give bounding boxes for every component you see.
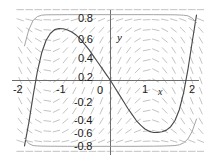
- slope-field-dash: [152, 20, 159, 21]
- slope-field-dash: [116, 19, 122, 21]
- slope-field-dash: [152, 130, 159, 131]
- slope-field-dash: [162, 98, 166, 103]
- slope-field-dash: [116, 140, 122, 142]
- slope-field-dash: [125, 140, 132, 142]
- slope-field-dash: [53, 19, 60, 20]
- slope-field-dash: [100, 118, 103, 124]
- slope-field-dash: [127, 47, 131, 52]
- slope-field-dash: [63, 68, 67, 73]
- slope-field-dash: [81, 28, 86, 33]
- slope-field-dash: [127, 67, 131, 73]
- slope-field-dash: [172, 67, 175, 73]
- slope-field-dash: [143, 30, 150, 31]
- slope-field-dash: [19, 67, 22, 73]
- slope-field-dash: [82, 87, 85, 93]
- slope-field-dash: [180, 129, 185, 134]
- slope-field-dash: [162, 119, 167, 123]
- slope-field-dash: [127, 98, 131, 104]
- slope-field-dash: [53, 69, 59, 72]
- slope-field-dash: [53, 120, 59, 122]
- slope-field-dash: [73, 108, 77, 114]
- slope-field-dash: [18, 129, 23, 134]
- slope-field-dash: [44, 50, 51, 51]
- slope-field-dash: [181, 118, 185, 124]
- slope-field-dash: [44, 70, 51, 71]
- slope-field-dash: [181, 108, 184, 114]
- slope-field-dash: [63, 108, 68, 113]
- slope-field-dash: [170, 140, 177, 142]
- slope-field-dash: [35, 29, 41, 31]
- slope-field-dash: [200, 98, 203, 104]
- slope-field-dash: [153, 110, 159, 113]
- slope-field-dash: [44, 40, 51, 41]
- slope-field-dash: [99, 27, 104, 32]
- slope-field-dash: [73, 67, 76, 73]
- slope-field-dash: [99, 129, 104, 134]
- slope-field-dash: [143, 70, 150, 72]
- slope-field-dash: [53, 99, 59, 102]
- slope-field-dash: [171, 28, 176, 32]
- slope-field-dash: [53, 109, 59, 112]
- slope-field-dash: [200, 57, 203, 63]
- slope-field-dash: [35, 141, 42, 142]
- slope-field-dash: [181, 57, 184, 63]
- slope-field-dash: [35, 130, 41, 132]
- slope-field-dash: [100, 108, 103, 114]
- slope-field-dash: [143, 50, 150, 51]
- slope-field-dash: [199, 37, 202, 43]
- y-tick-label-2: 0.4: [78, 53, 93, 64]
- slope-field-dash: [63, 119, 68, 123]
- slope-field-dash: [98, 18, 104, 21]
- slope-field-dash: [27, 68, 31, 74]
- slope-field-dash: [190, 118, 193, 124]
- slope-field-dash: [153, 49, 159, 52]
- slope-field-dash: [127, 57, 131, 63]
- x-tick-label-0: -2: [13, 84, 22, 95]
- slope-field-dash: [19, 47, 22, 53]
- plot-canvas: [0, 0, 204, 166]
- slope-field-dash: [118, 118, 122, 124]
- slope-field-dash: [36, 99, 41, 103]
- slope-field-dash: [118, 57, 121, 63]
- slope-field-dash: [53, 49, 59, 52]
- slope-field-dash: [72, 28, 77, 32]
- slope-field-dash: [27, 57, 31, 63]
- slope-field-dash: [189, 140, 195, 143]
- slope-field-dash: [126, 119, 131, 124]
- slope-field-dash: [18, 37, 22, 42]
- slope-field-dash: [73, 57, 76, 63]
- slope-field-dash: [172, 47, 176, 53]
- y-axis-label: y: [117, 32, 122, 43]
- x-tick-label-3: 1: [142, 84, 148, 95]
- slope-field-dash: [162, 48, 167, 53]
- slope-field-dash: [63, 98, 67, 103]
- slope-field-dash: [53, 59, 59, 62]
- slope-field-dash: [143, 110, 150, 111]
- slope-field-dash: [100, 37, 103, 43]
- slope-field-dash: [44, 30, 51, 31]
- slope-field-dash: [153, 69, 159, 72]
- slope-field-dash: [63, 48, 68, 53]
- slope-field-dash: [118, 47, 121, 53]
- slope-field-dash: [181, 37, 185, 43]
- slope-field-dash: [118, 67, 121, 73]
- slope-field-dash: [36, 109, 41, 113]
- slope-field-dash: [198, 140, 204, 143]
- slope-field-dash: [19, 57, 22, 63]
- slope-field-dash: [90, 27, 95, 32]
- y-tick-label-6: -0.4: [74, 115, 92, 126]
- y-tick-label-1: 0.6: [78, 34, 93, 45]
- slope-field-dash: [82, 108, 85, 114]
- slope-field-dash: [36, 88, 41, 93]
- slope-field-dash: [170, 19, 177, 21]
- slope-field-dash: [100, 57, 103, 63]
- slope-field-dash: [199, 118, 202, 124]
- slope-field-dash: [143, 120, 150, 121]
- slope-field-dash: [153, 59, 159, 62]
- slope-field-dash: [200, 67, 202, 73]
- slope-field-dash: [125, 19, 132, 21]
- slope-field-dash: [18, 118, 22, 123]
- y-tick-label-5: -0.2: [74, 97, 92, 108]
- slope-field-dash: [135, 98, 140, 103]
- slope-field-dash: [44, 131, 51, 132]
